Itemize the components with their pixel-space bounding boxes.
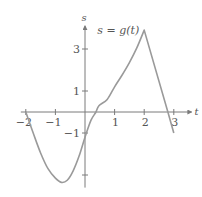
function-curve — [26, 30, 174, 182]
y-tick-label: 3 — [73, 43, 80, 56]
y-tick-label: −1 — [64, 127, 80, 140]
x-tick-label: 2 — [142, 116, 149, 129]
y-axis-label: s — [81, 12, 86, 23]
function-label: s = g(t) — [97, 24, 139, 37]
x-tick-label: −1 — [45, 116, 61, 129]
function-graph: −2−112331−1 t s s = g(t) — [0, 0, 202, 197]
x-tick-label: 1 — [112, 116, 119, 129]
x-axis-label: t — [195, 106, 200, 117]
tick-labels: −2−112331−1 — [16, 43, 179, 140]
y-tick-label: 1 — [73, 85, 80, 98]
